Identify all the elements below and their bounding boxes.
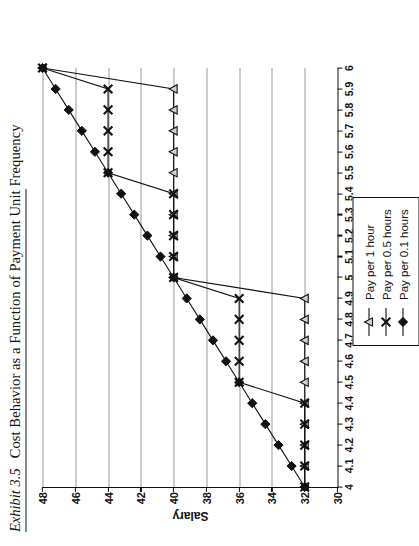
x-tick-mark [337, 403, 342, 404]
x-tick-label: 4.6 [342, 354, 354, 369]
y-tick-label: 46 [69, 492, 81, 504]
y-tick-label: 36 [233, 492, 245, 504]
x-tick-label: 5.9 [342, 82, 354, 97]
y-tick-label: 42 [134, 492, 146, 504]
x-tick-label: 5.7 [342, 124, 354, 139]
x-tick-label: 5.6 [342, 145, 354, 160]
x-tick-label: 4.4 [342, 396, 354, 411]
legend-label: Pay per 0.5 hours [380, 209, 392, 300]
x-tick-mark [337, 67, 342, 68]
legend-item: Pay per 1 hour [360, 209, 377, 337]
data-point [77, 126, 86, 135]
x-tick-label: 4.1 [342, 459, 354, 474]
data-point [116, 189, 125, 198]
y-tick-label: 44 [102, 492, 114, 504]
y-tick-label: 32 [298, 492, 310, 504]
data-point [155, 252, 164, 261]
x-tick-mark [337, 130, 342, 131]
data-point [169, 127, 177, 135]
y-axis-label-text: Salary [172, 509, 208, 523]
title-underline [25, 189, 26, 532]
x-tick-label: 4.2 [342, 438, 354, 453]
x-tick-mark [337, 277, 342, 278]
y-tick-label: 34 [265, 492, 277, 504]
legend-label: Pay per 0.1 hours [397, 209, 409, 300]
figure-title: Exhibit 3.5 Cost Behavior as a Function … [6, 12, 26, 532]
data-point [260, 420, 269, 429]
y-tick-label: 38 [200, 492, 212, 504]
data-point [129, 210, 138, 219]
x-tick-mark [337, 298, 342, 299]
x-tick-mark [337, 193, 342, 194]
plot-area: 3032343638404244464844.14.24.34.44.54.64… [42, 68, 338, 488]
x-tick-mark [337, 235, 342, 236]
data-point [142, 231, 151, 240]
x-tick-label: 5.5 [342, 165, 354, 180]
y-tick-label: 48 [36, 492, 48, 504]
data-point [195, 315, 204, 324]
x-tick-mark [337, 486, 342, 487]
x-tick-mark [337, 361, 342, 362]
legend-item: Pay per 0.1 hours [394, 209, 411, 337]
y-axis-label: Salary [42, 498, 338, 534]
data-point [169, 85, 177, 93]
data-point [208, 336, 217, 345]
legend-diamond-filled-icon [395, 307, 410, 337]
data-point [300, 378, 308, 386]
legend-x-icon [378, 307, 393, 337]
page-title: Cost Behavior as a Function of Payment U… [6, 124, 23, 458]
data-point [300, 294, 308, 302]
exhibit-number: Exhibit 3.5 [6, 468, 23, 532]
x-tick-label: 4.5 [342, 375, 354, 390]
legend-label: Pay per 1 hour [363, 225, 375, 300]
data-point [273, 441, 282, 450]
data-point [64, 105, 73, 114]
data-point [182, 294, 191, 303]
y-tick-label: 40 [167, 492, 179, 504]
x-tick-mark [337, 319, 342, 320]
data-point [300, 357, 308, 365]
legend: Pay per 1 hourPay per 0.5 hoursPay per 0… [352, 197, 419, 346]
x-tick-mark [337, 88, 342, 89]
data-point [169, 148, 177, 156]
x-tick-label: 5.8 [342, 103, 354, 118]
x-tick-mark [337, 151, 342, 152]
data-point [247, 399, 256, 408]
data-point [300, 336, 308, 344]
data-point [90, 147, 99, 156]
x-tick-mark [337, 214, 342, 215]
data-point [300, 315, 308, 323]
legend-item: Pay per 0.5 hours [377, 209, 394, 337]
x-tick-mark [337, 109, 342, 110]
data-point [221, 357, 230, 366]
x-tick-mark [337, 382, 342, 383]
data-point [169, 169, 177, 177]
data-point [287, 461, 296, 470]
x-tick-label: 4.3 [342, 417, 354, 432]
x-tick-mark [337, 256, 342, 257]
data-point [169, 106, 177, 114]
x-tick-label: 6 [342, 65, 354, 71]
x-tick-label: 4 [342, 484, 354, 490]
y-tick-label: 30 [331, 492, 343, 504]
series-layer [42, 68, 337, 487]
x-tick-mark [337, 340, 342, 341]
x-tick-mark [337, 465, 342, 466]
legend-triangle-open-icon [361, 307, 376, 337]
x-tick-mark [337, 424, 342, 425]
data-point [51, 84, 60, 93]
x-tick-mark [337, 445, 342, 446]
x-tick-mark [337, 172, 342, 173]
